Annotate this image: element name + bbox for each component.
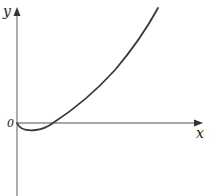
x-axis-label: x — [196, 125, 204, 141]
y-axis-label: y — [2, 3, 12, 19]
y-axis-arrow-icon — [14, 7, 21, 16]
function-curve — [17, 8, 158, 130]
origin-label: 0 — [7, 117, 14, 130]
function-graph: y 0 x — [0, 0, 210, 196]
